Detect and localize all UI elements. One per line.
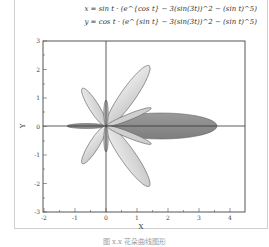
x-axis-label: X [139,223,144,231]
svg-text:1: 1 [36,94,40,101]
svg-text:1: 1 [135,214,139,221]
y-tick-labels: 3 2 1 0 -1 -2 -3 [34,37,40,215]
svg-text:-2: -2 [41,214,47,221]
svg-text:4: 4 [228,214,232,221]
svg-text:0: 0 [36,123,40,130]
svg-text:-1: -1 [34,151,40,158]
y-axis-label: Y [19,123,27,129]
svg-text:2: 2 [36,66,40,73]
svg-text:-2: -2 [34,180,40,187]
x-tick-labels: -2 -1 0 1 2 3 4 [41,214,232,221]
svg-text:2: 2 [166,214,170,221]
svg-text:-1: -1 [72,214,78,221]
svg-text:3: 3 [36,37,40,44]
flower-curve-chart: 3 2 1 0 -1 -2 -3 -2 -1 0 1 2 3 4 X Y [0,0,269,247]
svg-text:-3: -3 [34,208,40,215]
figure-caption: 图 x.x 花朵曲线图形 [0,236,269,246]
svg-text:3: 3 [197,214,201,221]
svg-text:0: 0 [104,214,108,221]
